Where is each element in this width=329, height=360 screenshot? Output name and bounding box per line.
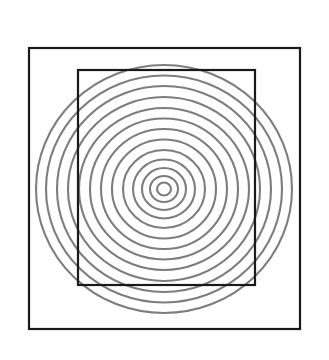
concentric-rings-group bbox=[36, 65, 292, 313]
ring-10 bbox=[68, 97, 260, 281]
ring-1 bbox=[157, 183, 171, 196]
ring-5 bbox=[123, 150, 205, 228]
ring-7 bbox=[101, 129, 227, 249]
ring-12 bbox=[46, 76, 282, 303]
figure-svg bbox=[0, 0, 329, 360]
ring-2 bbox=[150, 176, 178, 202]
ring-9 bbox=[79, 108, 249, 270]
ring-13 bbox=[36, 65, 292, 313]
ring-6 bbox=[112, 140, 216, 239]
ring-3 bbox=[142, 168, 186, 210]
figure-canvas bbox=[0, 0, 329, 360]
